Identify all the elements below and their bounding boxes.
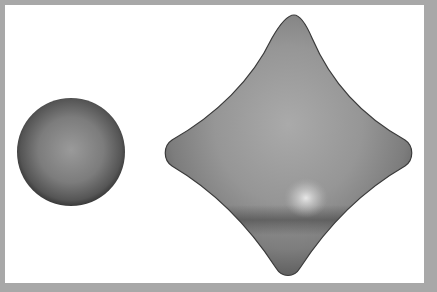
astroid-surface: [160, 15, 420, 276]
image-frame: [0, 0, 437, 292]
render-panel: [5, 5, 424, 283]
render-canvas: [5, 5, 424, 283]
sphere: [17, 98, 125, 206]
